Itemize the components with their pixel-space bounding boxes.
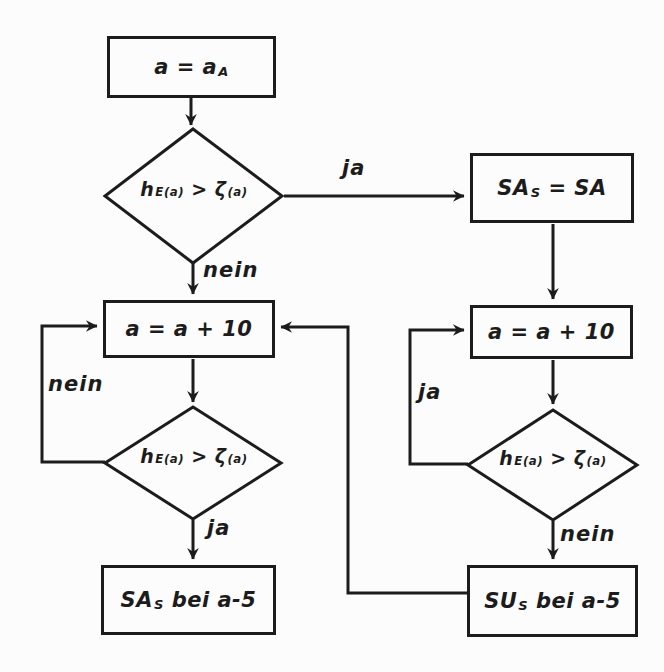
condition-sub-ea: E(a) [155,454,184,466]
label-nein-decision1: nein [203,260,258,281]
result-sus-subscript: S [518,599,528,612]
result-sas-subscript: S [154,598,164,611]
label-ja-decision2: ja [207,518,230,539]
condition-h: h [140,180,154,199]
start-box-text: a = a [154,57,217,78]
result-sas-text-post: bei a-5 [164,590,257,611]
condition-sub-a: (a) [227,454,247,466]
assign-sas-text: SA [497,178,529,199]
start-box: a = aA [107,36,276,98]
condition-h: h [140,447,154,466]
result-sus-text-post: bei a-5 [528,591,621,612]
start-box-subscript: A [218,65,229,78]
label-ja-decision1: ja [342,158,365,179]
condition-gt-zeta: > ζ [184,180,226,199]
assign-sas-box: SAS = SA [470,153,634,223]
result-sas-box: SAS bei a-5 [101,565,276,635]
flowchart-canvas: a = aA SAS = SA a = a + 10 a = a + 10 SA… [0,0,664,672]
condition-sub-a: (a) [586,456,606,468]
decision2-condition-text: hE(a) > ζ(a) [105,447,283,466]
label-nein-loop-left: nein [48,374,103,395]
increment-right-text: a = a + 10 [488,322,615,343]
label-ja-loop-right: ja [418,382,441,403]
increment-box-left: a = a + 10 [103,300,275,358]
decision3-condition-text: hE(a) > ζ(a) [468,449,638,468]
result-sas-text: SA [121,590,153,611]
label-nein-decision3: nein [560,524,615,545]
assign-sas-subscript: S [531,186,541,199]
condition-sub-a: (a) [227,187,247,199]
increment-box-right: a = a + 10 [470,305,633,359]
condition-gt-zeta: > ζ [543,449,585,468]
result-sus-box: SUS bei a-5 [467,565,638,637]
condition-sub-ea: E(a) [155,187,184,199]
decision1-condition-text: hE(a) > ζ(a) [105,180,283,199]
assign-sas-text-post: = SA [541,178,607,199]
condition-gt-zeta: > ζ [184,447,226,466]
edge-resultsu-to-incleft [281,327,467,593]
result-sus-text: SU [484,591,517,612]
increment-left-text: a = a + 10 [125,319,252,340]
condition-sub-ea: E(a) [514,456,543,468]
condition-h: h [499,449,513,468]
